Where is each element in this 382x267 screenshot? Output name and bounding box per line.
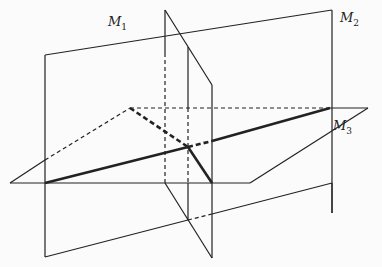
planes-figure xyxy=(0,0,382,267)
label-m3: M3 xyxy=(333,118,352,136)
label-m2: M2 xyxy=(340,10,359,28)
label-m1: M1 xyxy=(108,14,127,32)
diagram-canvas: M1 M2 M3 xyxy=(0,0,382,267)
plane-m1 xyxy=(165,10,212,258)
